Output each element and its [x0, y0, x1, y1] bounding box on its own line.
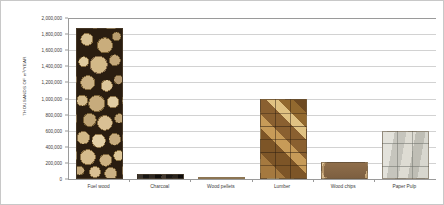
y-tick-label: 200,000: [45, 160, 62, 165]
y-tick-label: 2,000,000: [42, 16, 62, 21]
bar-slot: [69, 18, 130, 179]
bar-lumber: [260, 99, 307, 180]
bar-charcoal: [137, 174, 184, 179]
y-tick-label: 600,000: [45, 128, 62, 133]
y-tick-label: 400,000: [45, 144, 62, 149]
bar-slot: [130, 18, 191, 179]
x-tick-mark: [313, 179, 314, 182]
y-tick-label: 1,600,000: [42, 48, 62, 53]
y-tick-label: 1,000,000: [42, 96, 62, 101]
x-tick-mark: [129, 179, 130, 182]
x-tick-label: Wood chips: [313, 184, 374, 198]
chart-figure: THOUSANDS OF m³/YEAR 0200,000400,000600,…: [0, 0, 444, 205]
bar-slot: [314, 18, 375, 179]
x-tick-mark: [190, 179, 191, 182]
x-tick-mark: [374, 179, 375, 182]
bar-slot: [375, 18, 436, 179]
x-tick-label: Wood pellets: [190, 184, 251, 198]
bar-wood-chips: [321, 162, 368, 179]
y-tick-label: 1,200,000: [42, 80, 62, 85]
y-tick-label: 0: [59, 177, 62, 182]
x-tick-label: Lumber: [252, 184, 313, 198]
bar-series: [69, 18, 436, 179]
x-tick-mark: [252, 179, 253, 182]
bar-paper-pulp: [382, 131, 429, 179]
x-tick-label: Paper Pulp: [374, 184, 435, 198]
y-axis-ticks: 0200,000400,000600,000800,0001,000,0001,…: [25, 18, 65, 179]
y-tick-label: 1,400,000: [42, 64, 62, 69]
bar-wood-pellets: [198, 177, 245, 179]
bar-fuel-wood: [76, 28, 123, 179]
bar-slot: [191, 18, 252, 179]
y-tick-label: 800,000: [45, 112, 62, 117]
bar-slot: [253, 18, 314, 179]
y-tick-label: 1,800,000: [42, 32, 62, 37]
x-tick-label: Charcoal: [129, 184, 190, 198]
x-axis-labels: Fuel woodCharcoalWood pelletsLumberWood …: [68, 184, 435, 198]
plot-area: [68, 18, 436, 180]
x-tick-label: Fuel wood: [68, 184, 129, 198]
